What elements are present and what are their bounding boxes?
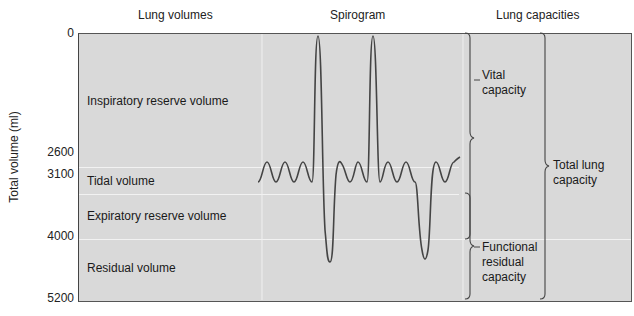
label-functional-residual-capacity: Functional residual capacity [482,240,537,285]
spirogram-and-brackets [0,0,634,316]
functional-residual-capacity-bracket [465,193,474,299]
spirogram-trace [258,36,460,262]
label-vital-capacity: Vital capacity [482,68,526,98]
total-lung-capacity-bracket [540,33,549,299]
label-total-lung-capacity: Total lung capacity [553,158,604,188]
